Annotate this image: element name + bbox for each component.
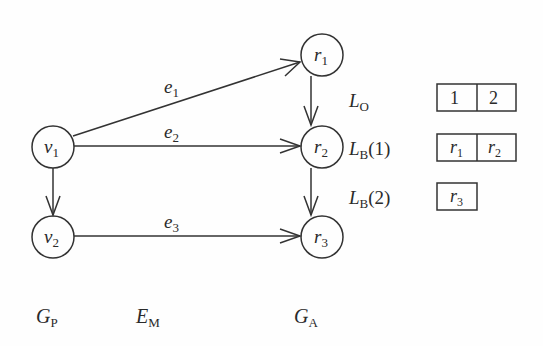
- list-cell-LO-0: 1: [450, 88, 459, 108]
- label-mapping: EM: [135, 305, 160, 330]
- label-pattern-graph: GP: [36, 305, 58, 330]
- list-cell-LO-1: 2: [489, 88, 498, 108]
- label-r3: r3: [314, 226, 328, 250]
- list-box-LB1: [437, 134, 516, 161]
- edge-r1-r2: [304, 76, 318, 125]
- label-architecture-graph: GA: [294, 305, 318, 330]
- label-r2: r2: [314, 136, 328, 160]
- label-r1: r1: [314, 44, 328, 68]
- diagram-canvas: v1 v2 r1 r2 r3 e1 e2 e3 LO LB(1) LB(2) 1…: [0, 0, 543, 346]
- label-e3: e3: [164, 211, 179, 235]
- list-label-LO: LO: [348, 90, 369, 114]
- label-e1: e1: [164, 76, 179, 100]
- graph-diagram: v1 v2 r1 r2 r3 e1 e2 e3 LO LB(1) LB(2) 1…: [0, 0, 543, 346]
- label-v2: v2: [44, 226, 59, 250]
- list-cell-LB1-0: r1: [450, 137, 463, 160]
- edge-e2: [74, 139, 300, 153]
- list-cell-LB2-0: r3: [450, 186, 463, 209]
- edge-r2-r3: [304, 168, 318, 215]
- list-label-LB1: LB(1): [348, 138, 390, 162]
- label-v1: v1: [44, 136, 59, 160]
- list-box-LO: [437, 84, 516, 111]
- label-e2: e2: [164, 121, 179, 145]
- edge-e3: [74, 229, 300, 243]
- edge-v1-v2: [46, 168, 60, 215]
- edge-e1: [73, 59, 300, 136]
- list-label-LB2: LB(2): [348, 187, 390, 211]
- list-cell-LB1-1: r2: [488, 137, 501, 160]
